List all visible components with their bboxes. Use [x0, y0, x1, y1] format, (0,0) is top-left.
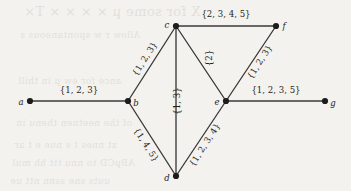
edge-weight-label-c-e: {2} — [204, 50, 214, 66]
vertex-label-c: c — [165, 20, 170, 30]
graph-edge-d-e — [176, 101, 226, 176]
vertex-label-d: d — [164, 173, 170, 183]
edge-weight-label-c-d: {1, 3} — [172, 87, 182, 114]
vertex-label-a: a — [18, 97, 23, 107]
graph-vertex-b — [125, 98, 131, 104]
edge-weight-label-c-f: {2, 3, 4, 5} — [201, 9, 250, 19]
graph-vertex-a — [27, 98, 33, 104]
vertex-label-f: f — [281, 21, 287, 31]
graph-vertex-c — [173, 23, 179, 29]
weighted-graph-figure: X for some µ × × × × T×Allow r w spontan… — [0, 0, 351, 191]
edge-weight-label-d-e: {1, 2, 3, 4} — [187, 121, 222, 168]
graph-canvas: abcdefg {1, 2, 3}{1, 2, 3}{1, 4, 5}{1, 3… — [0, 0, 351, 191]
graph-edge-c-e — [176, 26, 226, 101]
vertex-label-b: b — [133, 98, 138, 108]
graph-vertex-d — [173, 173, 179, 179]
vertex-label-e: e — [214, 97, 219, 107]
graph-vertex-e — [223, 98, 229, 104]
graph-edge-b-d — [128, 101, 176, 176]
edge-weight-label-a-b: {1, 2, 3} — [60, 85, 98, 95]
vertex-label-g: g — [330, 98, 336, 108]
graph-vertex-g — [322, 98, 328, 104]
edge-weight-label-e-f: {1, 2, 3} — [245, 43, 274, 81]
edge-weight-label-e-g: {1, 2, 3, 5} — [251, 85, 300, 95]
graph-vertex-f — [273, 23, 279, 29]
